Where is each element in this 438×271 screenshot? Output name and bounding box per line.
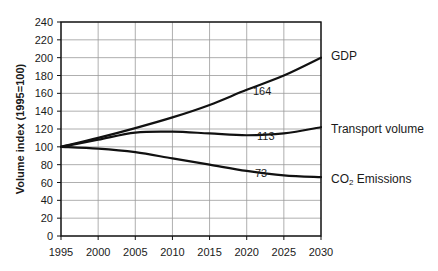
y-tick-label: 120 bbox=[35, 123, 53, 135]
x-tick-label: 2030 bbox=[309, 246, 333, 258]
y-tick-label: 240 bbox=[35, 16, 53, 28]
x-tick-label: 2000 bbox=[86, 246, 110, 258]
x-axis-ticks: 19952000200520102015202020252030 bbox=[49, 236, 333, 258]
y-tick-label: 60 bbox=[41, 177, 53, 189]
y-tick-label: 0 bbox=[47, 230, 53, 242]
annotation-co2-2020: 73 bbox=[255, 167, 267, 179]
y-axis-label: Volume index (1995=100) bbox=[14, 64, 26, 195]
x-tick-label: 2010 bbox=[160, 246, 184, 258]
gridlines bbox=[61, 22, 321, 236]
y-tick-label: 80 bbox=[41, 159, 53, 171]
y-tick-label: 40 bbox=[41, 194, 53, 206]
line-chart: 020406080100120140160180200220240 199520… bbox=[0, 0, 438, 271]
annotation-gdp-2020: 164 bbox=[253, 85, 271, 97]
x-tick-label: 2025 bbox=[272, 246, 296, 258]
x-tick-label: 2020 bbox=[234, 246, 258, 258]
y-axis-ticks: 020406080100120140160180200220240 bbox=[35, 16, 61, 242]
x-tick-label: 2015 bbox=[197, 246, 221, 258]
annotation-transport-2020: 113 bbox=[257, 130, 275, 142]
series-label-co2: CO2 Emissions bbox=[331, 172, 411, 187]
series-label-gdp: GDP bbox=[331, 49, 357, 63]
x-tick-label: 1995 bbox=[49, 246, 73, 258]
series-label-transport: Transport volume bbox=[331, 122, 424, 136]
y-tick-label: 180 bbox=[35, 70, 53, 82]
y-tick-label: 20 bbox=[41, 212, 53, 224]
y-tick-label: 160 bbox=[35, 87, 53, 99]
y-tick-label: 220 bbox=[35, 34, 53, 46]
y-tick-label: 200 bbox=[35, 52, 53, 64]
y-tick-label: 140 bbox=[35, 105, 53, 117]
series-line-co2-emissions bbox=[61, 147, 321, 177]
y-tick-label: 100 bbox=[35, 141, 53, 153]
x-tick-label: 2005 bbox=[123, 246, 147, 258]
